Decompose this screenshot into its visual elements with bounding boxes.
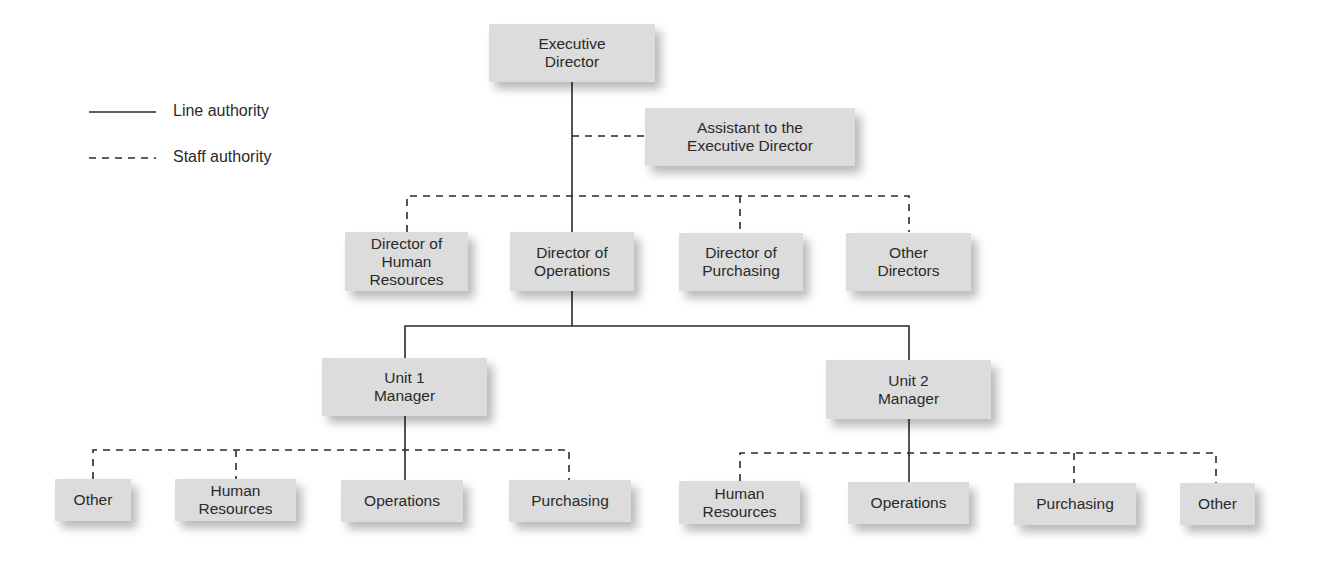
node-unit2-hr: Human Resources xyxy=(679,481,800,524)
node-director-purchasing: Director of Purchasing xyxy=(679,233,803,291)
node-unit1-operations: Operations xyxy=(341,480,463,522)
node-director-operations: Director of Operations xyxy=(510,232,634,291)
node-label: Purchasing xyxy=(1036,495,1114,513)
staff-line-directors xyxy=(407,196,909,232)
node-label: Executive Director xyxy=(538,35,605,71)
node-unit2-purchasing: Purchasing xyxy=(1014,483,1136,525)
node-unit2-other: Other xyxy=(1180,483,1255,525)
node-label: Director of Operations xyxy=(534,244,610,280)
node-director-hr: Director of Human Resources xyxy=(345,232,468,291)
node-other-directors: Other Directors xyxy=(846,233,971,291)
node-executive-director: Executive Director xyxy=(489,24,655,82)
node-assistant: Assistant to the Executive Director xyxy=(645,108,855,166)
node-label: Assistant to the Executive Director xyxy=(687,119,813,155)
node-label: Director of Purchasing xyxy=(702,244,780,280)
node-unit2-manager: Unit 2 Manager xyxy=(826,360,991,419)
node-label: Operations xyxy=(364,492,440,510)
node-label: Other xyxy=(1198,495,1237,513)
node-label: Unit 1 Manager xyxy=(374,369,435,405)
line-ops-to-units xyxy=(405,326,909,360)
node-label: Director of Human Resources xyxy=(369,235,443,289)
node-label: Human Resources xyxy=(702,485,776,521)
staff-line-unit2 xyxy=(740,453,1216,483)
node-label: Other Directors xyxy=(877,244,939,280)
node-label: Other xyxy=(74,491,113,509)
node-label: Unit 2 Manager xyxy=(878,372,939,408)
node-unit1-purchasing: Purchasing xyxy=(509,480,631,522)
node-unit1-manager: Unit 1 Manager xyxy=(322,358,487,416)
node-unit1-hr: Human Resources xyxy=(175,479,296,521)
node-label: Operations xyxy=(871,494,947,512)
legend-staff-authority: Staff authority xyxy=(173,148,271,166)
node-unit2-operations: Operations xyxy=(848,482,969,524)
node-label: Purchasing xyxy=(531,492,609,510)
node-label: Human Resources xyxy=(198,482,272,518)
legend-line-authority: Line authority xyxy=(173,102,269,120)
node-unit1-other: Other xyxy=(55,479,131,521)
staff-line-unit1 xyxy=(93,450,569,480)
